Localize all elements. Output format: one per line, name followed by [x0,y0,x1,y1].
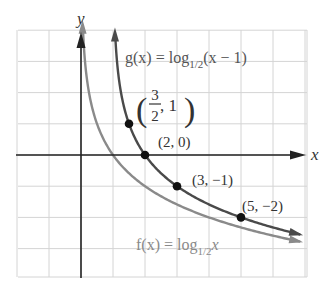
fraction-numerator: 3 [151,87,159,103]
g-label-main: g(x) = log [125,49,189,67]
g-label-tail: (x − 1) [203,49,247,67]
g-label-sub: 1/2 [189,58,203,70]
data-point [237,213,246,222]
data-point [141,151,150,160]
log-graph: x y g(x) = log1/2(x − 1) f(x) = log1/2x … [0,0,331,291]
fraction-denominator: 2 [151,108,159,124]
g-curve-end-arrow-icon [289,228,304,236]
x-axis-arrow-icon [290,151,306,160]
fraction-rest: , 1 [160,96,177,115]
right-paren: ) [184,91,195,129]
point-label-5-neg2: (5, −2) [242,198,283,215]
f-label-tail: x [211,236,219,253]
point-label-3-neg1: (3, −1) [192,172,233,189]
x-axis-label: x [310,145,319,164]
y-axis-label: y [75,9,85,28]
f-label-main: f(x) = log [136,236,197,254]
f-label-sub: 1/2 [197,245,211,257]
left-paren: ( [136,91,147,129]
data-point [125,120,134,129]
f-curve-end-arrow-icon [289,235,304,243]
g-function-label: g(x) = log1/2(x − 1) [125,49,247,70]
g-curve-top-arrow-icon [111,28,119,42]
point-label-2-0: (2, 0) [158,134,191,151]
data-point [173,182,182,191]
point-label-three-halves-one: ( 3 2 , 1 ) [136,87,195,129]
